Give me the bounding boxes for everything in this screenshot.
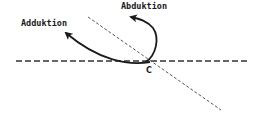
abduktion-label: Abduktion: [121, 1, 167, 11]
adduktion-label: Adduktion: [21, 18, 67, 28]
motion-diagram: Adduktion Abduktion C: [0, 0, 259, 114]
center-point-label: C: [146, 66, 152, 75]
abduktion-arrow: [131, 17, 157, 62]
adduktion-arrow: [66, 33, 150, 63]
